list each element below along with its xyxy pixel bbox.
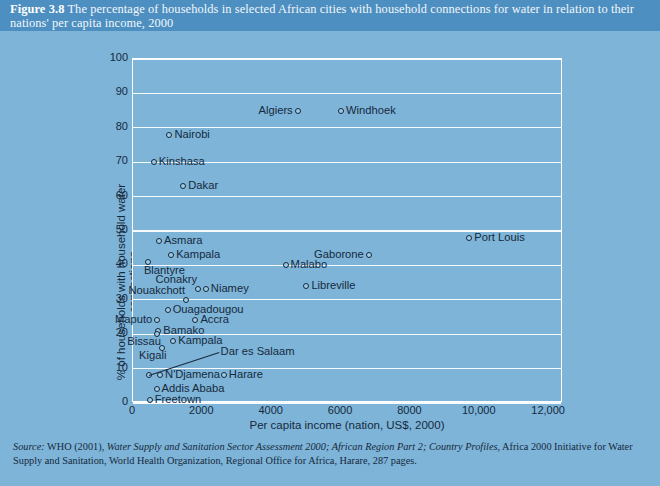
source-note: Source: WHO (2001), Water Supply and San…	[13, 440, 649, 467]
x-tick-label: 4000	[258, 404, 282, 416]
data-point-marker[interactable]	[283, 262, 289, 268]
data-point-label: Dar es Salaam	[221, 347, 295, 359]
data-point-marker[interactable]	[338, 108, 344, 114]
data-point-label: Nouakchott	[128, 285, 185, 297]
data-point-marker[interactable]	[151, 159, 157, 165]
figure-number: Figure 3.8	[10, 2, 64, 16]
data-point-label: Niamey	[211, 284, 249, 296]
data-point-marker[interactable]	[183, 297, 189, 303]
y-tick-label: 30	[102, 292, 128, 304]
data-point-marker[interactable]	[170, 338, 176, 344]
data-point-marker[interactable]	[366, 252, 372, 258]
x-tick-label: 10,000	[462, 404, 496, 416]
data-point-label: Harare	[229, 370, 263, 382]
data-point-label: Port Louis	[474, 232, 524, 244]
x-axis-ticks: 0200040006000800010,00012,000	[132, 404, 562, 420]
data-point-label: Kigali	[139, 350, 166, 362]
x-tick-label: 0	[129, 404, 135, 416]
data-point-marker[interactable]	[192, 317, 198, 323]
data-point-marker[interactable]	[165, 307, 171, 313]
data-point-marker[interactable]	[154, 317, 160, 323]
data-point-marker[interactable]	[303, 283, 309, 289]
y-tick-label: 40	[102, 257, 128, 269]
y-axis-label-host: % of households with household water con…	[90, 58, 91, 402]
x-axis-label: Per capita income (nation, US$, 2000)	[132, 419, 562, 431]
y-tick-label: 10	[102, 361, 128, 373]
data-point-label: Asmara	[164, 236, 203, 248]
y-axis-ticks: 0102030405060708090100	[98, 58, 128, 402]
data-point-label: Maputo	[115, 315, 152, 327]
x-tick-label: 6000	[328, 404, 352, 416]
data-point-marker[interactable]	[154, 386, 160, 392]
gridline	[133, 299, 561, 300]
data-point-marker[interactable]	[195, 286, 201, 292]
data-point-label: Algiers	[259, 105, 293, 117]
figure-container: Figure 3.8 The percentage of households …	[0, 0, 660, 486]
data-point-label: Windhoek	[346, 105, 396, 117]
data-point-marker[interactable]	[166, 132, 172, 138]
data-point-marker[interactable]	[156, 238, 162, 244]
data-point-marker[interactable]	[168, 252, 174, 258]
y-tick-label: 80	[102, 120, 128, 132]
x-tick-label: 8000	[397, 404, 421, 416]
x-tick-label: 12,000	[531, 404, 565, 416]
gridline	[133, 58, 561, 59]
data-point-marker[interactable]	[157, 372, 163, 378]
y-tick-label: 90	[102, 85, 128, 97]
data-point-label: Kampala	[176, 249, 220, 261]
figure-caption: Figure 3.8 The percentage of households …	[10, 2, 650, 30]
data-point-label: Kampala	[178, 335, 222, 347]
source-before: WHO (2001),	[45, 441, 107, 452]
data-point-label: Dakar	[188, 181, 218, 193]
data-point-marker[interactable]	[180, 183, 186, 189]
x-tick-label: 2000	[189, 404, 213, 416]
data-point-label: N'Djamena	[165, 370, 220, 382]
y-tick-label: 100	[102, 51, 128, 63]
data-point-marker[interactable]	[221, 372, 227, 378]
y-tick-label: 20	[102, 326, 128, 338]
source-prefix: Source:	[13, 441, 45, 452]
data-point-label: Malabo	[291, 260, 328, 272]
data-point-label: Libreville	[311, 280, 355, 292]
gridline	[133, 196, 561, 197]
source-title: Water Supply and Sanitation Sector Asses…	[107, 441, 498, 452]
data-point-label: Accra	[200, 315, 229, 327]
figure-caption-text: The percentage of households in selected…	[10, 2, 634, 30]
y-tick-label: 70	[102, 154, 128, 166]
y-tick-label: 60	[102, 189, 128, 201]
data-point-label: Kinshasa	[159, 156, 205, 168]
data-point-marker[interactable]	[466, 235, 472, 241]
data-point-marker[interactable]	[295, 108, 301, 114]
gridline	[133, 93, 561, 94]
y-tick-label: 0	[102, 395, 128, 407]
data-point-label: Bissau	[127, 336, 161, 348]
gridline	[133, 265, 561, 266]
y-tick-label: 50	[102, 223, 128, 235]
data-point-marker[interactable]	[147, 397, 153, 403]
plot-area: AlgiersWindhoekNairobiKinshasaDakarPort …	[132, 58, 562, 402]
data-point-marker[interactable]	[203, 286, 209, 292]
data-point-label: Nairobi	[174, 129, 209, 141]
